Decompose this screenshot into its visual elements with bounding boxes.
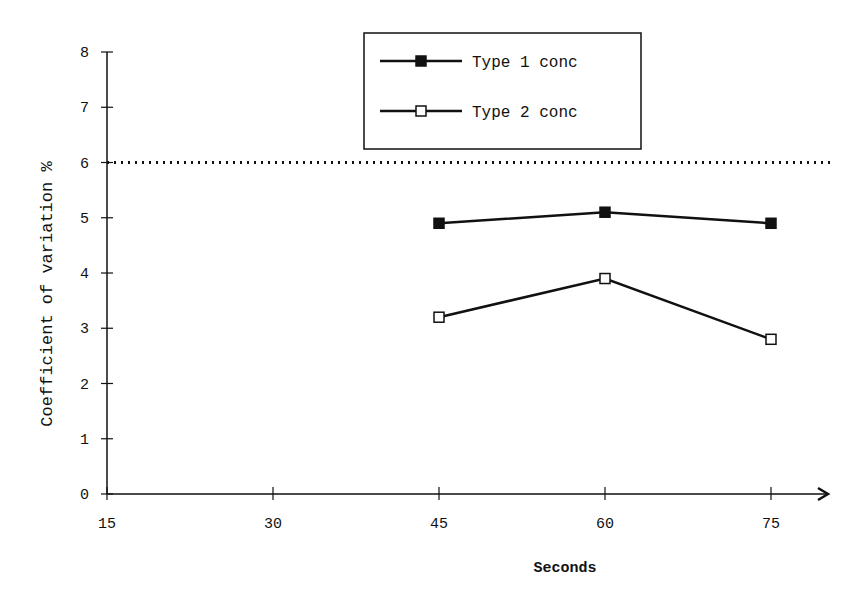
data-point-marker bbox=[766, 334, 776, 344]
data-point-marker bbox=[434, 312, 444, 322]
legend-marker bbox=[416, 106, 426, 116]
y-tick-label: 8 bbox=[80, 45, 89, 62]
line-chart: 0123456781530456075SecondsCoefficient of… bbox=[0, 0, 867, 602]
y-tick-label: 2 bbox=[80, 377, 89, 394]
y-tick-label: 6 bbox=[80, 156, 89, 173]
x-tick-label: 45 bbox=[430, 516, 448, 533]
series-line-2 bbox=[439, 279, 771, 340]
y-tick-label: 7 bbox=[80, 100, 89, 117]
legend-label: Type 1 conc bbox=[472, 54, 578, 72]
y-tick-label: 1 bbox=[80, 432, 89, 449]
data-point-marker bbox=[600, 274, 610, 284]
legend-box bbox=[364, 33, 641, 149]
x-tick-label: 60 bbox=[596, 516, 614, 533]
legend-label: Type 2 conc bbox=[472, 104, 578, 122]
y-tick-label: 5 bbox=[80, 211, 89, 228]
y-tick-label: 0 bbox=[80, 487, 89, 504]
legend-marker bbox=[416, 56, 426, 66]
data-point-marker bbox=[766, 218, 776, 228]
y-axis-label: Coefficient of variation % bbox=[38, 161, 57, 427]
data-point-marker bbox=[434, 218, 444, 228]
x-axis-label: Seconds bbox=[533, 560, 596, 577]
y-tick-label: 4 bbox=[80, 266, 89, 283]
x-tick-label: 75 bbox=[762, 516, 780, 533]
x-tick-label: 15 bbox=[98, 516, 116, 533]
y-tick-label: 3 bbox=[80, 321, 89, 338]
x-tick-label: 30 bbox=[264, 516, 282, 533]
data-point-marker bbox=[600, 207, 610, 217]
